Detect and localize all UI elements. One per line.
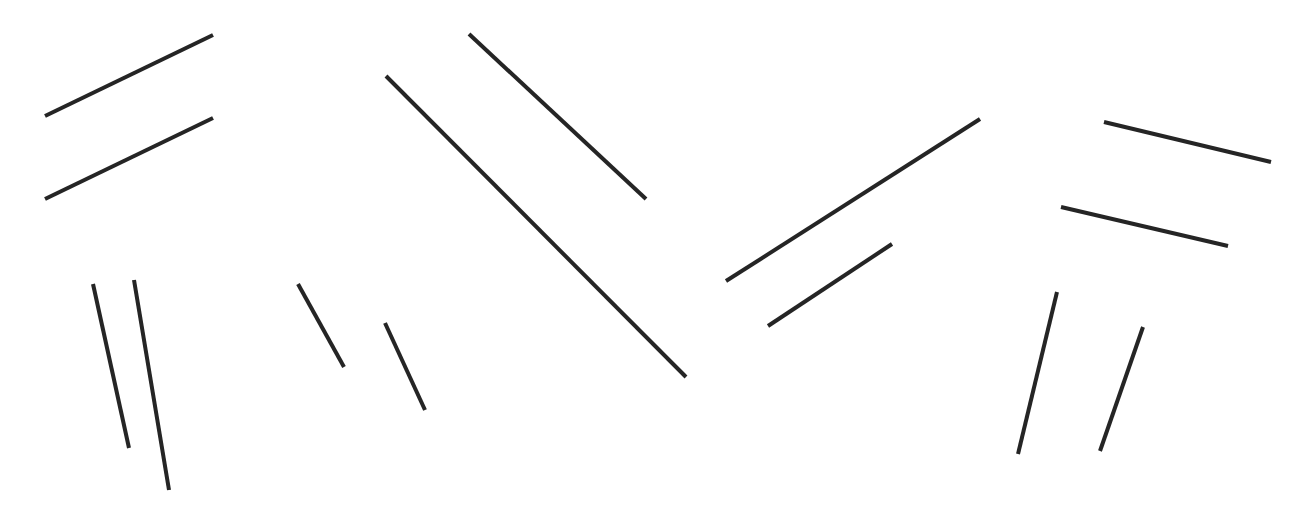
line-segment-pair1-a xyxy=(45,35,213,116)
line-segment-pair7-b xyxy=(1100,327,1143,451)
line-segment-pair2-a xyxy=(93,284,129,448)
line-segment-pair1-b xyxy=(45,118,213,199)
line-segment-pair5-a xyxy=(726,119,980,281)
line-segment-pair5-b xyxy=(768,244,892,326)
line-segment-pair2-b xyxy=(134,280,169,490)
line-segment-pair4-a xyxy=(386,76,686,377)
segment-group xyxy=(45,34,1271,490)
line-segment-pair7-a xyxy=(1018,292,1057,454)
line-segment-pair4-b xyxy=(469,34,646,199)
line-segment-pair3-a xyxy=(298,284,344,367)
line-segment-pair6-b xyxy=(1061,207,1228,246)
line-segments-diagram xyxy=(0,0,1304,525)
line-segment-pair3-b xyxy=(385,323,425,410)
line-segment-pair6-a xyxy=(1104,122,1271,162)
